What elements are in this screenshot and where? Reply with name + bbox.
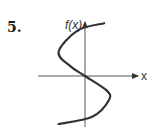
x-axis-label: x (141, 69, 147, 83)
curve-series (58, 23, 110, 124)
graph: x f(x) (0, 0, 156, 135)
